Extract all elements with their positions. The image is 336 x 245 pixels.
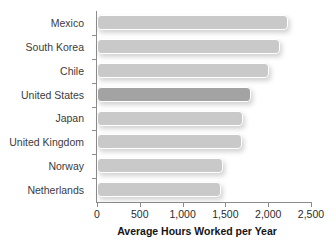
- bar-japan: [97, 111, 243, 126]
- bar-mexico: [97, 15, 288, 30]
- bar-row: [97, 59, 311, 83]
- y-tick-mark: [92, 83, 97, 84]
- bar-united-states: [97, 87, 251, 102]
- x-tick-mark: [97, 202, 98, 207]
- bar-row: [97, 35, 311, 59]
- bar-row: [97, 83, 311, 107]
- bar-chile: [97, 63, 269, 78]
- y-tick-mark: [92, 154, 97, 155]
- bar-row: [97, 11, 311, 35]
- y-axis-label-chile: Chile: [0, 65, 84, 77]
- x-tick-mark: [311, 202, 312, 207]
- y-tick-mark: [92, 107, 97, 108]
- plot-area: [97, 11, 311, 202]
- x-tick-label-1000: 1,000: [160, 208, 206, 220]
- y-tick-mark: [92, 59, 97, 60]
- y-axis-label-mexico: Mexico: [0, 17, 84, 29]
- bar-south-korea: [97, 39, 280, 54]
- bar-row: [97, 178, 311, 202]
- y-tick-mark: [92, 35, 97, 36]
- y-axis-label-norway: Norway: [0, 160, 84, 172]
- x-axis-title: Average Hours Worked per Year: [0, 225, 336, 237]
- y-axis-label-netherlands: Netherlands: [0, 184, 84, 196]
- bar-norway: [97, 158, 223, 173]
- x-tick-label-0: 0: [74, 208, 120, 220]
- y-axis-label-united-states: United States: [0, 89, 84, 101]
- bar-row: [97, 107, 311, 131]
- bar-chart: MexicoSouth KoreaChileUnited StatesJapan…: [0, 0, 336, 245]
- bar-united-kingdom: [97, 134, 242, 149]
- y-tick-mark: [92, 130, 97, 131]
- y-tick-mark: [92, 178, 97, 179]
- y-axis-label-united-kingdom: United Kingdom: [0, 136, 84, 148]
- y-axis-label-south-korea: South Korea: [0, 41, 84, 53]
- x-tick-mark: [268, 202, 269, 207]
- x-tick-mark: [183, 202, 184, 207]
- y-axis-category-labels: MexicoSouth KoreaChileUnited StatesJapan…: [0, 11, 92, 202]
- x-tick-mark: [140, 202, 141, 207]
- bar-netherlands: [97, 182, 221, 197]
- x-axis-line: [96, 202, 311, 203]
- bar-row: [97, 130, 311, 154]
- bar-series: [97, 11, 311, 202]
- x-tick-label-1500: 1,500: [202, 208, 248, 220]
- x-tick-mark: [225, 202, 226, 207]
- x-tick-label-2000: 2,000: [245, 208, 291, 220]
- x-tick-label-500: 500: [117, 208, 163, 220]
- y-axis-label-japan: Japan: [0, 112, 84, 124]
- bar-row: [97, 154, 311, 178]
- x-tick-label-2500: 2,500: [288, 208, 334, 220]
